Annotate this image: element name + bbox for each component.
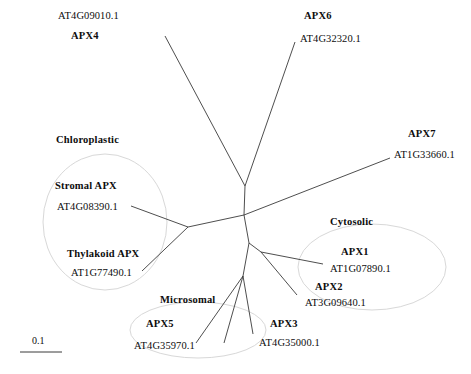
- taxon-accession-apx1: AT1G07890.1: [330, 263, 391, 274]
- taxon-name-apx4: APX4: [71, 30, 99, 41]
- taxon-name-apx2: APX2: [315, 281, 343, 292]
- branch-micro-left: [224, 276, 243, 343]
- taxon-accession-apx2: AT3G09640.1: [305, 297, 366, 308]
- branch-stromal: [131, 206, 188, 227]
- taxon-name-thylakoid-apx: Thylakoid APX: [67, 248, 139, 259]
- branch-thylakoid: [142, 227, 188, 271]
- branch-to-cyto-stem: [244, 215, 249, 243]
- taxon-name-apx5: APX5: [146, 318, 174, 329]
- branch-apx2: [261, 252, 297, 295]
- taxon-name-apx3: APX3: [270, 318, 298, 329]
- branch-to-micro-stem: [243, 243, 249, 276]
- taxon-accession-thylakoid-apx: AT1G77490.1: [71, 267, 132, 278]
- branch-to-chloro: [188, 215, 244, 227]
- branch-apx4: [165, 36, 245, 186]
- taxon-name-apx7: APX7: [408, 128, 436, 139]
- clade-label-cytosolic: Cytosolic: [330, 216, 373, 227]
- branch-apx5: [196, 276, 243, 343]
- taxon-name-stromal-apx: Stromal APX: [55, 180, 117, 191]
- branch-apx6: [245, 42, 295, 186]
- taxon-accession-apx5: AT4G35970.1: [134, 340, 195, 351]
- taxon-accession-apx6: AT4G32320.1: [300, 33, 361, 44]
- branch-apx1: [261, 252, 323, 264]
- phylogenetic-tree-figure: APX4AT4G09010.1APX6AT4G32320.1APX7AT1G33…: [0, 0, 471, 374]
- taxon-name-apx6: APX6: [304, 10, 332, 21]
- branch-apx7: [244, 158, 390, 215]
- taxon-accession-stromal-apx: AT4G08390.1: [57, 201, 118, 212]
- scale-bar-label: 0.1: [32, 336, 45, 347]
- taxon-accession-apx7: AT1G33660.1: [394, 149, 455, 160]
- branch-cyto-node: [249, 243, 261, 252]
- branch-upper-stem: [244, 186, 245, 215]
- taxon-accession-apx3: AT4G35000.1: [259, 337, 320, 348]
- taxon-name-apx1: APX1: [341, 246, 369, 257]
- branch-apx3: [243, 276, 253, 334]
- clade-label-chloroplastic: Chloroplastic: [56, 134, 119, 145]
- taxon-accession-apx4: AT4G09010.1: [58, 10, 119, 21]
- clade-label-microsomal: Microsomal: [160, 294, 215, 305]
